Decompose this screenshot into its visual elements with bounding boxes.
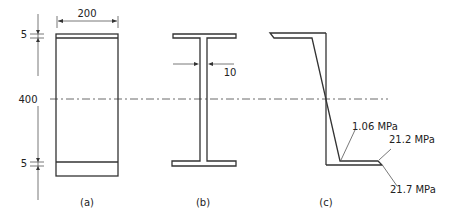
- panel-b: 10 (b): [172, 34, 236, 208]
- panel-c-label: (c): [319, 197, 332, 208]
- panel-a-label: (a): [80, 197, 94, 208]
- stress-label-2: 21.2 MPa: [389, 134, 435, 145]
- i-section-outline: [172, 34, 236, 166]
- stress-label-1: 1.06 MPa: [352, 121, 398, 132]
- diagram-canvas: 200 5 400 5 (a) 10 (b) 1.06 MPa 21.2 MPa…: [0, 0, 453, 223]
- panel-a: 200 5 400 5 (a): [18, 8, 118, 208]
- panel-b-label: (b): [196, 197, 210, 208]
- section-a-outline: [56, 34, 118, 176]
- web-thickness-label: 10: [224, 67, 237, 78]
- stress-label-3: 21.7 MPa: [390, 184, 436, 195]
- depth-label: 400: [18, 94, 37, 105]
- width-label: 200: [77, 8, 96, 19]
- panel-c: 1.06 MPa 21.2 MPa 21.7 MPa (c): [270, 33, 436, 208]
- bottom-flange-thickness-label: 5: [21, 158, 27, 169]
- top-flange-thickness-label: 5: [21, 29, 27, 40]
